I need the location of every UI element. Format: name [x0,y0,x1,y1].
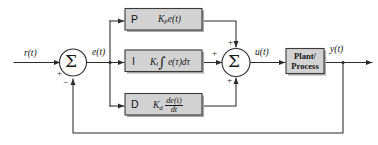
junction-dot-error-branch [108,61,111,64]
proportional-block-letter: P [131,14,138,25]
integral-block-letter: I [132,56,135,67]
control-summing-junction-symbol: Σ [228,53,240,70]
control-sum-sign-bottom: + [227,76,232,85]
derivative-block-expression: Kd de(t)dt [153,97,183,115]
control-sum-sign-top: + [228,38,233,47]
integral-integrand: e(τ)dτ [168,57,190,67]
error-signal-label: e(t) [92,48,105,58]
derivative-denominator: dt [165,106,183,115]
derivative-fraction: de(t)dt [165,97,183,115]
output-signal-label: y(t) [330,45,343,55]
error-sum-sign-bottom: − [63,78,68,87]
control-signal-label: u(t) [255,48,269,58]
proportional-error-term: e(t) [168,14,181,24]
pid-block-diagram: r(t) e(t) u(t) y(t) Σ + − Σ + + + P Kpe(… [0,0,378,145]
proportional-block-expression: Kpe(t) [158,15,181,25]
integral-block-expression: Ki∫ e(τ)dτ [150,55,190,69]
integral-sign-icon: ∫ [158,54,165,70]
reference-signal-label: r(t) [24,49,37,59]
plant-block-label: Plant/Process [286,52,324,71]
control-sum-sign-left: + [212,49,217,58]
error-sum-sign-left: + [57,69,62,78]
derivative-gain-subscript: d [159,103,162,110]
derivative-block-letter: D [131,99,139,110]
error-summing-junction-symbol: Σ [65,53,77,70]
plant-label-line1: Plant/ [294,51,316,61]
plant-label-line2: Process [291,61,319,71]
